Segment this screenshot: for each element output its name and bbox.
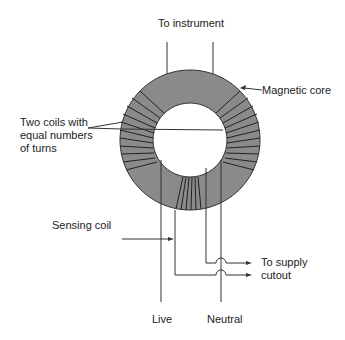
label-sensing-coil: Sensing coil	[52, 219, 111, 232]
label-two-coils-2: equal numbers	[20, 129, 93, 142]
label-to-supply: To supply	[261, 256, 307, 269]
label-neutral: Neutral	[207, 313, 242, 326]
label-two-coils-1: Two coils with	[20, 116, 88, 129]
instrument-wires	[167, 42, 213, 74]
rcd-diagram	[0, 0, 345, 340]
label-two-coils-3: of turns	[20, 142, 57, 155]
magnetic-core	[120, 70, 260, 210]
label-magnetic-core: Magnetic core	[262, 84, 331, 97]
label-to-instrument: To instrument	[158, 17, 224, 30]
label-live: Live	[152, 313, 172, 326]
label-cutout: cutout	[261, 269, 291, 282]
